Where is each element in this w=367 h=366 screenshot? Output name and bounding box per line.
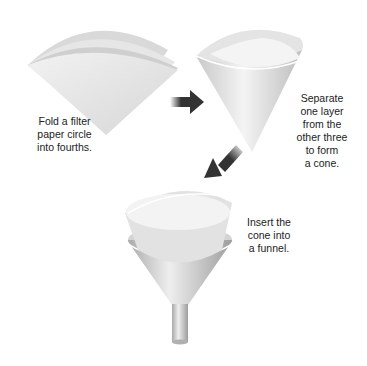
caption-line: one layer bbox=[287, 105, 357, 118]
caption-line: a cone. bbox=[287, 157, 357, 170]
arrow-right-icon bbox=[170, 90, 204, 114]
caption-line: other three bbox=[287, 131, 357, 144]
caption-line: Separate bbox=[287, 92, 357, 105]
cone-in-funnel-illustration bbox=[125, 191, 233, 344]
caption-line: into fourths. bbox=[22, 141, 107, 154]
caption-line: a funnel. bbox=[238, 242, 300, 255]
caption-line: Insert the bbox=[238, 216, 300, 229]
step-2-caption: Separate one layer from the other three … bbox=[287, 92, 357, 170]
caption-line: cone into bbox=[238, 229, 300, 242]
caption-line: to form bbox=[287, 144, 357, 157]
arrow-down-left-icon bbox=[204, 145, 243, 178]
diagram-art bbox=[0, 0, 367, 366]
step-1-caption: Fold a filter paper circle into fourths. bbox=[22, 115, 107, 154]
caption-line: paper circle bbox=[22, 128, 107, 141]
caption-line: Fold a filter bbox=[22, 115, 107, 128]
step-3-caption: Insert the cone into a funnel. bbox=[238, 216, 300, 255]
caption-line: from the bbox=[287, 118, 357, 131]
